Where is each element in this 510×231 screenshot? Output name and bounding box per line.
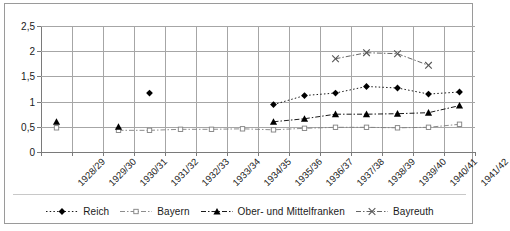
data-point-filled-triangle	[53, 118, 60, 125]
data-point-filled-diamond	[146, 90, 153, 97]
series-layer	[41, 26, 475, 153]
data-point-filled-triangle	[115, 123, 122, 130]
x-tick-label-1939-40: 1939/40	[416, 156, 448, 188]
legend-item-reich[interactable]: Reich	[45, 206, 109, 217]
legend-marker-filled-diamond-icon	[45, 206, 79, 217]
x-tick-label-1935-36: 1935/36	[292, 156, 324, 188]
data-point-open-square	[147, 128, 151, 132]
data-point-open-square	[134, 209, 138, 213]
x-tick-label-1938-39: 1938/39	[385, 156, 417, 188]
chart-legend: ReichBayernOber- und MittelfrankenBayreu…	[5, 200, 474, 222]
legend-marker-open-square-icon	[119, 206, 153, 217]
data-point-open-square	[426, 125, 430, 129]
y-tick-label: 0	[29, 147, 35, 158]
legend-marker-x-cross-icon	[355, 206, 389, 217]
x-tick-label-1941-42: 1941/42	[478, 156, 510, 188]
legend-item-bayreuth[interactable]: Bayreuth	[355, 206, 434, 217]
x-tick-label-1933-34: 1933/34	[230, 156, 262, 188]
legend-label: Reich	[83, 206, 109, 217]
data-point-filled-diamond	[332, 90, 339, 97]
y-tick-label: 2,5	[21, 21, 35, 32]
series-reich	[146, 83, 463, 108]
series-line	[119, 124, 460, 130]
x-tick-label-1928-29: 1928/29	[75, 156, 107, 188]
data-point-open-square	[302, 126, 306, 130]
data-point-open-square	[333, 125, 337, 129]
y-tick-label: 0,5	[21, 121, 35, 132]
data-point-open-square	[209, 127, 213, 131]
plot-area: 00,511,522,5	[41, 26, 475, 152]
data-point-open-square	[364, 125, 368, 129]
x-tick-label-1931-32: 1931/32	[168, 156, 200, 188]
data-point-filled-triangle	[456, 102, 463, 109]
series-ober-und-mittelfranken	[53, 102, 463, 130]
data-point-open-square	[271, 128, 275, 132]
legend-marker-filled-triangle-icon	[200, 206, 234, 217]
data-point-x-cross	[425, 62, 432, 69]
data-point-filled-diamond	[301, 92, 308, 99]
y-tick-label: 2	[29, 46, 35, 57]
legend-label: Ober- und Mittelfranken	[238, 206, 345, 217]
data-point-filled-diamond	[425, 91, 432, 98]
data-point-filled-diamond	[456, 89, 463, 96]
x-tick-label-1930-31: 1930/31	[137, 156, 169, 188]
y-tick-label: 1	[29, 96, 35, 107]
legend-label: Bayreuth	[393, 206, 434, 217]
data-point-filled-diamond	[363, 83, 370, 90]
data-point-open-square	[395, 126, 399, 130]
x-tick-label-1937-38: 1937/38	[354, 156, 386, 188]
y-tick-label: 1,5	[21, 71, 35, 82]
legend-item-ober-und-mittelfranken[interactable]: Ober- und Mittelfranken	[200, 206, 345, 217]
data-point-filled-diamond	[270, 101, 277, 108]
x-tick-label-1934-35: 1934/35	[261, 156, 293, 188]
series-bayreuth	[332, 49, 432, 68]
series-line	[336, 53, 429, 66]
data-point-filled-diamond	[59, 208, 66, 215]
x-tick-label-1929-30: 1929/30	[106, 156, 138, 188]
data-point-open-square	[457, 122, 461, 126]
legend-label: Bayern	[157, 206, 189, 217]
legend-divider	[13, 194, 466, 195]
data-point-open-square	[54, 126, 58, 130]
x-tick-label-1932-33: 1932/33	[199, 156, 231, 188]
x-tick-label-1936-37: 1936/37	[323, 156, 355, 188]
chart-frame: 00,511,522,5 1928/291929/301930/311931/3…	[4, 3, 473, 224]
data-point-filled-diamond	[394, 85, 401, 92]
x-tick-label-1940-41: 1940/41	[447, 156, 479, 188]
data-point-open-square	[178, 127, 182, 131]
series-bayern	[54, 122, 461, 132]
legend-item-bayern[interactable]: Bayern	[119, 206, 189, 217]
data-point-open-square	[240, 127, 244, 131]
